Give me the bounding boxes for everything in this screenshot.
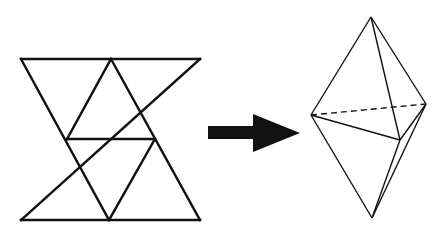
arrow-shaft <box>208 126 255 139</box>
edge-top-right <box>371 17 426 104</box>
edge-left-right-hidden <box>311 104 426 115</box>
edge-front-bottom <box>372 140 400 218</box>
net-diagonal-4 <box>67 59 111 139</box>
edge-front-right <box>400 104 426 140</box>
edge-top-front <box>371 17 400 140</box>
bipyramid-solid <box>311 17 426 218</box>
edge-right-bottom <box>372 104 426 218</box>
net-diagonal-2 <box>21 59 200 220</box>
diagram-canvas <box>0 0 445 228</box>
triangle-net <box>21 59 200 220</box>
edge-left-bottom <box>311 115 372 218</box>
arrow-head <box>253 114 300 152</box>
net-diagonal-5 <box>109 139 155 220</box>
edge-top-left <box>311 17 371 115</box>
arrow-right-icon <box>208 114 300 152</box>
diagram-svg <box>0 0 445 228</box>
